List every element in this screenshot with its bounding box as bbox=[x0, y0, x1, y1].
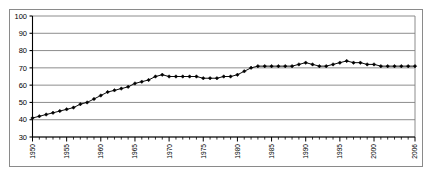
data-point-1988 bbox=[290, 64, 294, 68]
data-series-line bbox=[33, 61, 416, 118]
y-tick-labels: 30405060708090100 bbox=[14, 12, 27, 142]
y-tick-label-50: 50 bbox=[19, 98, 27, 107]
data-point-2000 bbox=[372, 63, 376, 67]
y-tick-label-40: 40 bbox=[19, 115, 27, 124]
x-tick-label-1960: 1960 bbox=[97, 144, 104, 159]
y-tick-label-60: 60 bbox=[19, 81, 27, 90]
data-point-1985 bbox=[270, 64, 274, 68]
data-point-1981 bbox=[242, 70, 246, 74]
x-tick-labels: 1950195519601965197019751980198519901995… bbox=[29, 144, 419, 159]
data-point-1956 bbox=[72, 106, 76, 110]
x-tick-label-1985: 1985 bbox=[268, 144, 275, 159]
data-point-1991 bbox=[311, 63, 315, 67]
data-point-1997 bbox=[352, 61, 356, 64]
data-point-1962 bbox=[113, 89, 117, 93]
data-point-1971 bbox=[174, 75, 178, 79]
y-tick-label-90: 90 bbox=[19, 29, 27, 38]
x-tick-label-1975: 1975 bbox=[200, 144, 207, 159]
x-tick-label-1995: 1995 bbox=[336, 144, 343, 159]
data-point-1983 bbox=[256, 64, 260, 68]
data-point-1968 bbox=[154, 75, 158, 79]
data-point-1960 bbox=[99, 94, 103, 98]
data-point-1972 bbox=[181, 75, 185, 79]
data-point-1977 bbox=[215, 76, 219, 80]
data-point-2006 bbox=[413, 64, 417, 68]
data-point-1966 bbox=[140, 80, 144, 84]
data-point-1989 bbox=[297, 63, 301, 67]
line-chart: 30405060708090100 1950195519601965197019… bbox=[0, 0, 434, 178]
data-point-1994 bbox=[331, 63, 335, 67]
x-tick-label-1955: 1955 bbox=[63, 144, 70, 159]
data-point-1976 bbox=[208, 76, 212, 80]
data-point-1992 bbox=[318, 64, 322, 68]
data-point-1974 bbox=[195, 75, 199, 79]
x-tick-label-2000: 2000 bbox=[370, 144, 377, 159]
x-tick-label-1980: 1980 bbox=[234, 144, 241, 159]
data-point-1982 bbox=[249, 66, 253, 70]
data-point-1979 bbox=[229, 75, 233, 79]
data-point-1993 bbox=[324, 64, 328, 68]
data-point-1970 bbox=[167, 75, 171, 79]
series-line-series-1 bbox=[33, 61, 416, 118]
x-tick-label-1950: 1950 bbox=[29, 144, 36, 159]
data-point-2003 bbox=[393, 64, 397, 68]
data-point-1996 bbox=[345, 59, 349, 63]
x-tick-label-1965: 1965 bbox=[131, 144, 138, 159]
data-point-2002 bbox=[386, 64, 390, 68]
data-point-1995 bbox=[338, 61, 342, 64]
data-point-1958 bbox=[85, 101, 89, 105]
data-point-1967 bbox=[147, 78, 151, 82]
data-point-1952 bbox=[44, 113, 48, 117]
data-point-1965 bbox=[133, 82, 137, 86]
data-point-1963 bbox=[120, 87, 124, 91]
data-point-2001 bbox=[379, 64, 383, 68]
y-tick-label-80: 80 bbox=[19, 46, 27, 55]
x-tick-label-1970: 1970 bbox=[166, 144, 173, 159]
y-tick-label-30: 30 bbox=[19, 133, 27, 142]
x-axis bbox=[33, 137, 416, 142]
data-point-1980 bbox=[236, 73, 240, 77]
x-tick-label-1990: 1990 bbox=[302, 144, 309, 159]
data-point-1975 bbox=[202, 76, 206, 80]
data-point-1986 bbox=[277, 64, 281, 68]
data-point-1969 bbox=[161, 73, 165, 77]
data-point-1973 bbox=[188, 75, 192, 79]
data-point-1987 bbox=[283, 64, 287, 68]
data-point-2004 bbox=[400, 64, 404, 68]
data-point-1955 bbox=[65, 108, 69, 112]
data-point-1999 bbox=[365, 63, 369, 67]
data-point-1964 bbox=[126, 85, 130, 89]
data-point-1959 bbox=[92, 97, 96, 101]
data-point-1990 bbox=[304, 61, 308, 64]
x-tick-label-2006: 2006 bbox=[411, 144, 418, 159]
chart-container: 30405060708090100 1950195519601965197019… bbox=[0, 0, 434, 178]
data-point-1978 bbox=[222, 75, 226, 79]
data-point-1961 bbox=[106, 90, 110, 94]
data-point-1998 bbox=[359, 61, 363, 64]
data-point-1953 bbox=[51, 111, 55, 115]
y-tick-label-100: 100 bbox=[14, 12, 27, 21]
data-point-1951 bbox=[38, 115, 42, 119]
data-point-1954 bbox=[58, 109, 62, 113]
y-tick-label-70: 70 bbox=[19, 64, 27, 73]
data-point-1984 bbox=[263, 64, 267, 68]
data-point-1957 bbox=[79, 102, 83, 106]
data-point-2005 bbox=[406, 64, 410, 68]
